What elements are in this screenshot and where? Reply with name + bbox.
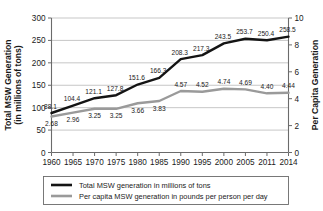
data-label-percapita: 3.25: [110, 112, 123, 119]
x-tick-label: 1990: [172, 158, 191, 167]
data-label-total: 104.4: [64, 95, 81, 102]
y2-tick-label: 10: [295, 14, 305, 23]
data-label-percapita: 4.69: [239, 79, 252, 86]
y2-tick-label: 8: [295, 41, 300, 50]
x-tick-label: 1985: [150, 158, 169, 167]
x-tick-label: 1960: [42, 158, 61, 167]
y-tick-label: 250: [32, 36, 46, 45]
x-tick-label: 1980: [129, 158, 148, 167]
y2-tick-label: 6: [295, 68, 300, 77]
data-label-total: 258.5: [279, 26, 296, 33]
x-tick-label: 2014: [279, 158, 298, 167]
data-label-percapita: 3.25: [88, 112, 101, 119]
data-label-total: 151.6: [128, 74, 145, 81]
chart-container: 050100150200250300 0246810 1960196519701…: [0, 0, 323, 211]
y-tick-label: 0: [41, 149, 46, 158]
y2-tick-label: 2: [295, 122, 300, 131]
data-label-percapita: 4.52: [196, 81, 209, 88]
y-tick-label: 50: [36, 126, 46, 135]
data-label-total: 208.3: [172, 49, 189, 56]
data-label-total: 253.7: [236, 28, 253, 35]
legend-label-percapita: Per capita MSW generation in pounds per …: [79, 192, 268, 201]
msw-generation-line-chart: 050100150200250300 0246810 1960196519701…: [0, 0, 323, 211]
right-axis-title-text: Per Capita Generation: [310, 40, 320, 130]
data-label-percapita: 2.96: [67, 116, 80, 123]
data-label-percapita: 2.68: [45, 120, 58, 127]
x-tick-label: 1995: [193, 158, 212, 167]
x-tick-label: 2000: [215, 158, 234, 167]
data-label-percapita: 3.66: [131, 107, 144, 114]
gridlines: [52, 18, 289, 130]
data-label-total: 88.1: [44, 103, 57, 110]
data-label-percapita: 4.44: [282, 82, 295, 89]
data-label-percapita: 4.74: [217, 78, 230, 85]
right-axis-title: Per Capita Generation: [310, 40, 320, 130]
data-label-total: 127.8: [107, 85, 124, 92]
data-label-total: 166.3: [150, 67, 167, 74]
legend-label-total: Total MSW generation in millions of tons: [79, 181, 211, 190]
data-label-percapita: 4.40: [261, 83, 274, 90]
data-label-percapita: 4.57: [174, 81, 187, 88]
data-label-total: 250.4: [258, 30, 275, 37]
x-tick-label: 2005: [236, 158, 255, 167]
x-tick-label: 1970: [85, 158, 104, 167]
y-tick-label: 150: [32, 81, 46, 90]
y-tick-label: 200: [32, 59, 46, 68]
y2-tick-label: 4: [295, 95, 300, 104]
left-axis-title: Total MSW Generation (in millions of ton…: [3, 39, 23, 130]
left-axis-title-line1: Total MSW Generation: [3, 39, 13, 130]
y-axis-ticks: 050100150200250300: [32, 14, 52, 158]
y2-tick-label: 0: [295, 149, 300, 158]
y-tick-label: 300: [32, 14, 46, 23]
data-label-total: 217.3: [193, 45, 210, 52]
x-tick-label: 1975: [107, 158, 126, 167]
left-axis-title-line2: (in millions of tons): [13, 45, 23, 124]
x-tick-label: 1965: [64, 158, 83, 167]
data-label-total: 243.5: [215, 33, 232, 40]
x-tick-label: 2011: [258, 158, 276, 167]
chart-legend: Total MSW generation in millions of tons…: [44, 177, 289, 205]
series-line-total-msw: [52, 37, 289, 113]
data-label-percapita: 3.83: [153, 105, 166, 112]
data-label-total: 121.1: [85, 88, 102, 95]
x-axis-ticks: 1960196519701975198019851990199520002005…: [42, 153, 298, 168]
